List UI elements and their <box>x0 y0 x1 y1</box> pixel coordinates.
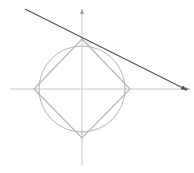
tangent-line <box>25 9 187 90</box>
diagram-canvas <box>0 0 194 173</box>
